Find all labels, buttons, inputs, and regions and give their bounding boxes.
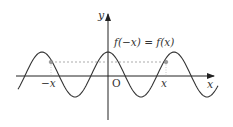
even-function-diagram: y f(−x) = f(x) −x O x x [0, 0, 233, 127]
y-axis-label: y [97, 9, 105, 22]
point-positive-x [164, 60, 168, 64]
equation-label: f(−x) = f(x) [113, 36, 174, 48]
pos-x-label: x [161, 77, 167, 89]
point-negative-x [49, 60, 53, 64]
origin-label: O [112, 77, 121, 89]
neg-x-label: −x [41, 77, 56, 89]
function-curve [18, 52, 218, 97]
x-axis-label: x [207, 78, 214, 91]
